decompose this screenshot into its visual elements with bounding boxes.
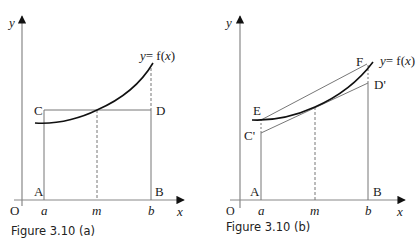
diagram-canvas: y x O A B C D a m b y= f(x) Figure 3.10 … bbox=[0, 0, 418, 242]
point-label-E: E bbox=[253, 103, 261, 118]
tick-label-a: a bbox=[41, 203, 48, 218]
chord-EF bbox=[261, 64, 367, 120]
point-label-B: B bbox=[155, 184, 164, 199]
tick-label-b: b bbox=[148, 203, 155, 218]
tick-label-m: m bbox=[92, 203, 101, 218]
point-label-B: B bbox=[373, 184, 382, 199]
point-label-A: A bbox=[34, 184, 44, 199]
point-label-C-prime: C' bbox=[244, 128, 255, 143]
origin-label: O bbox=[10, 203, 19, 218]
point-label-D: D bbox=[156, 103, 165, 118]
point-label-A: A bbox=[250, 184, 260, 199]
figure-a: y x O A B C D a m b y= f(x) Figure 3.10 … bbox=[7, 15, 184, 238]
figure-b: y x O A B C' D' E F a m b y= f(x) Figure… bbox=[224, 15, 415, 234]
x-axis-label: x bbox=[176, 204, 183, 219]
caption-figure-a: Figure 3.10 (a) bbox=[11, 224, 95, 238]
curve-label: y= f(x) bbox=[378, 53, 415, 68]
caption-figure-b: Figure 3.10 (b) bbox=[226, 220, 310, 234]
curve-f bbox=[35, 63, 153, 123]
y-axis-label: y bbox=[224, 15, 232, 30]
origin-label: O bbox=[226, 204, 235, 218]
x-axis-label: x bbox=[396, 204, 403, 219]
tick-label-b: b bbox=[365, 203, 372, 218]
point-label-F: F bbox=[356, 54, 363, 69]
tick-label-m: m bbox=[310, 203, 319, 218]
point-label-C: C bbox=[34, 103, 43, 118]
point-label-D-prime: D' bbox=[374, 77, 386, 92]
tick-label-a: a bbox=[258, 203, 265, 218]
curve-label: y= f(x) bbox=[138, 48, 175, 63]
y-axis-label: y bbox=[7, 15, 15, 30]
